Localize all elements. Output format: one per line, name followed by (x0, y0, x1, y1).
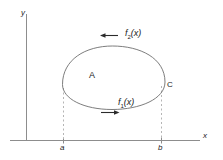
lower-curve-label: f1(x) (118, 98, 134, 109)
region-label-a: A (89, 71, 95, 80)
upper-curve-label: f2(x) (125, 29, 141, 40)
y-axis-label: y (21, 9, 25, 17)
lower-direction-arrow (101, 110, 120, 115)
tick-label-a: a (60, 144, 64, 152)
figure-canvas (0, 0, 223, 160)
upper-curve-arg: (x) (131, 28, 142, 38)
x-axis-label: x (203, 132, 207, 140)
integral-region-figure: y x a b A C f2(x) f1(x) (0, 0, 223, 160)
region-boundary-curve (63, 46, 166, 110)
tick-label-b: b (158, 144, 162, 152)
upper-direction-arrow (100, 33, 118, 38)
lower-curve-arg: (x) (124, 97, 135, 107)
curve-label-c: C (167, 81, 173, 89)
